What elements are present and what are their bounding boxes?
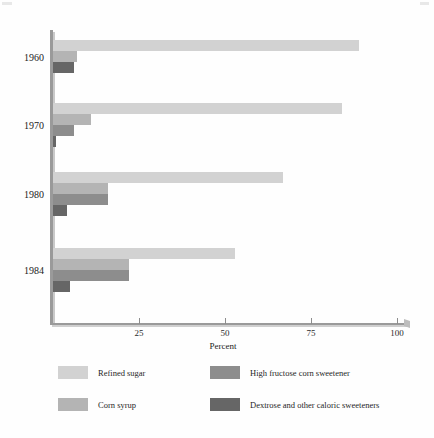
bar-1960-corn-syrup: [53, 51, 77, 62]
bar-1960-dextrose-and-other-caloric-sweeteners: [53, 62, 74, 73]
x-tick-75: [311, 318, 312, 324]
x-tick-label-75: 75: [307, 328, 316, 338]
x-axis-shadow: [52, 325, 408, 327]
bar-1980-refined-sugar: [53, 172, 283, 183]
x-tick-label-50: 50: [221, 328, 230, 338]
chart-page: 255075100 1960197019801984 Percent Refin…: [0, 0, 434, 438]
bar-1970-dextrose-and-other-caloric-sweeteners: [53, 136, 56, 147]
legend-item-refined-sugar[interactable]: Refined sugar: [58, 366, 145, 379]
bar-1960-refined-sugar: [53, 40, 359, 51]
x-tick-label-100: 100: [390, 328, 404, 338]
bar-1984-refined-sugar: [53, 248, 235, 259]
legend-item-corn-syrup[interactable]: Corn syrup: [58, 398, 136, 411]
legend-item-high-fructose-corn-sweetener[interactable]: High fructose corn sweetener: [210, 366, 350, 379]
year-label-1960: 1960: [0, 51, 44, 62]
bar-1980-dextrose-and-other-caloric-sweeteners: [53, 205, 67, 216]
bar-1980-high-fructose-corn-sweetener: [53, 194, 108, 205]
year-label-1984: 1984: [0, 265, 44, 276]
bar-1970-corn-syrup: [53, 114, 91, 125]
chart-legend: Refined sugarCorn syrupHigh fructose cor…: [0, 358, 434, 436]
bar-1984-dextrose-and-other-caloric-sweeteners: [53, 281, 70, 292]
legend-swatch-high-fructose-corn-sweetener: [210, 366, 240, 379]
x-axis-title-wrap: Percent: [0, 341, 434, 351]
x-tick-label-25: 25: [135, 328, 144, 338]
x-axis-arrow-cap: [404, 319, 410, 328]
legend-swatch-dextrose-and-other-caloric-sweeteners: [210, 398, 240, 411]
bar-1984-high-fructose-corn-sweetener: [53, 270, 129, 281]
x-axis-line: [50, 323, 406, 325]
year-label-1970: 1970: [0, 120, 44, 131]
legend-label-high-fructose-corn-sweetener: High fructose corn sweetener: [250, 368, 350, 378]
x-axis-title: Percent: [210, 341, 237, 351]
legend-label-corn-syrup: Corn syrup: [98, 400, 136, 410]
bar-1970-refined-sugar: [53, 103, 342, 114]
bar-1984-corn-syrup: [53, 259, 129, 270]
year-label-1980: 1980: [0, 189, 44, 200]
legend-label-refined-sugar: Refined sugar: [98, 368, 145, 378]
legend-item-dextrose-and-other-caloric-sweeteners[interactable]: Dextrose and other caloric sweeteners: [210, 398, 379, 411]
legend-swatch-corn-syrup: [58, 398, 88, 411]
x-tick-50: [225, 318, 226, 324]
legend-swatch-refined-sugar: [58, 366, 88, 379]
legend-label-dextrose-and-other-caloric-sweeteners: Dextrose and other caloric sweeteners: [250, 400, 379, 410]
x-tick-25: [139, 318, 140, 324]
plot-area: 255075100 1960197019801984 Percent: [0, 0, 434, 350]
bar-1970-high-fructose-corn-sweetener: [53, 125, 74, 136]
bar-1980-corn-syrup: [53, 183, 108, 194]
x-tick-100: [397, 318, 398, 324]
